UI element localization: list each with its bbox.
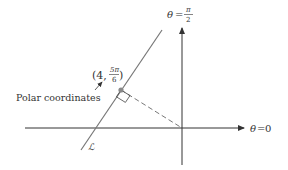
svg-text:=: = bbox=[175, 9, 183, 20]
svg-text:(4,: (4, bbox=[92, 69, 107, 82]
vertical-axis-label: θ = π 2 bbox=[167, 6, 193, 24]
horizontal-axis-label: θ = 0 bbox=[250, 123, 271, 134]
point-marker bbox=[118, 87, 123, 92]
svg-text:): ) bbox=[119, 69, 123, 82]
polar-diagram: θ = π 2 θ = 0 (4, 5π 6 ) Polar coordinat… bbox=[0, 0, 288, 170]
svg-text:θ: θ bbox=[250, 123, 256, 134]
right-angle-marker bbox=[116, 90, 130, 102]
line-label: ℒ bbox=[88, 142, 95, 152]
svg-text:6: 6 bbox=[112, 76, 117, 84]
svg-text:θ: θ bbox=[167, 9, 173, 20]
callout-arrow bbox=[95, 82, 102, 90]
svg-text:π: π bbox=[185, 6, 191, 14]
svg-text:0: 0 bbox=[265, 123, 271, 134]
svg-text:2: 2 bbox=[186, 16, 190, 24]
point-label: (4, 5π 6 ) bbox=[92, 66, 123, 84]
callout-label: Polar coordinates bbox=[16, 92, 101, 103]
